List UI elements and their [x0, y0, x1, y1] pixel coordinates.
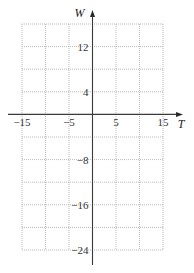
y-tick-label: −8: [77, 154, 89, 166]
x-tick-label: −5: [63, 116, 75, 128]
y-tick-label: 4: [83, 86, 89, 98]
tick-labels: −15−5515124−8−16−24: [13, 41, 169, 256]
coordinate-grid-chart: −15−5515124−8−16−24 T W: [0, 0, 194, 273]
x-tick-label: 15: [158, 116, 170, 128]
y-tick-label: −24: [71, 244, 89, 256]
y-tick-label: −16: [71, 199, 89, 211]
axes: [8, 10, 183, 265]
x-tick-label: −15: [13, 116, 31, 128]
y-axis-label: W: [75, 6, 86, 20]
x-axis-label: T: [178, 117, 186, 131]
y-tick-label: 12: [78, 41, 89, 53]
x-tick-label: 5: [113, 116, 119, 128]
y-axis-arrow-icon: [90, 10, 95, 17]
x-axis-arrow-icon: [176, 112, 183, 117]
